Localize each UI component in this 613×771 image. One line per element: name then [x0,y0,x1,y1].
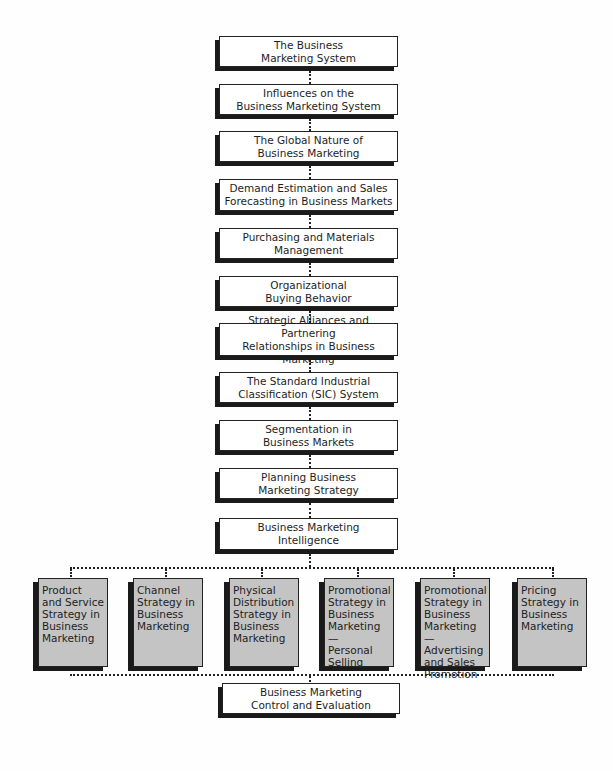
connector [357,569,359,577]
box-label: Promotional Strategy in Business Marketi… [424,584,487,680]
connector [309,676,311,682]
box-segmentation: Segmentation in Business Markets [219,420,398,451]
box-business-marketing-system: The Business Marketing System [219,36,398,67]
box-label: The Business Marketing System [261,39,356,65]
box-organizational-buying: Organizational Buying Behavior [219,276,398,307]
connector [261,569,263,577]
box-label: Purchasing and Materials Management [242,231,374,257]
connector [70,569,72,577]
box-sic-system: The Standard Industrial Classification (… [219,372,398,403]
connector [165,569,167,577]
box-influences: Influences on the Business Marketing Sys… [219,84,398,115]
connector [309,71,311,84]
connector [309,503,311,518]
connector [309,360,311,372]
box-global-nature: The Global Nature of Business Marketing [219,131,398,162]
box-label: Product and Service Strategy in Business… [42,584,104,644]
box-physical-distribution-strategy: Physical Distribution Strategy in Busine… [229,578,299,667]
connector [309,166,311,179]
box-label: Physical Distribution Strategy in Busine… [233,584,294,644]
box-pricing-strategy: Pricing Strategy in Business Marketing [517,578,587,667]
connector [309,455,311,468]
connector [309,119,311,131]
box-label: The Global Nature of Business Marketing [254,134,363,160]
box-label: Pricing Strategy in Business Marketing [521,584,579,632]
box-label: Organizational Buying Behavior [265,279,351,305]
box-channel-strategy: Channel Strategy in Business Marketing [133,578,203,667]
box-label: Demand Estimation and Sales Forecasting … [224,182,392,208]
connector [309,554,311,567]
box-promotional-personal-selling: Promotional Strategy in Business Marketi… [324,578,394,667]
box-purchasing: Purchasing and Materials Management [219,228,398,259]
box-label: Business Marketing Intelligence [258,521,360,547]
branch-line-top [70,567,554,569]
connector [552,569,554,577]
connector [309,215,311,228]
box-demand-estimation: Demand Estimation and Sales Forecasting … [219,179,398,211]
box-label: The Standard Industrial Classification (… [238,375,379,401]
box-intelligence: Business Marketing Intelligence [219,518,398,550]
box-control-evaluation: Business Marketing Control and Evaluatio… [222,683,400,714]
box-planning-strategy: Planning Business Marketing Strategy [219,468,398,499]
box-strategic-alliances: Strategic Alliances and Partnering Relat… [219,323,398,356]
connector [309,407,311,420]
box-label: Business Marketing Control and Evaluatio… [251,686,371,712]
box-label: Channel Strategy in Business Marketing [137,584,195,632]
box-label: Promotional Strategy in Business Marketi… [328,584,391,668]
box-promotional-advertising: Promotional Strategy in Business Marketi… [420,578,490,667]
box-product-service-strategy: Product and Service Strategy in Business… [38,578,108,667]
box-label: Strategic Alliances and Partnering Relat… [224,314,393,366]
branch-line-bottom [70,674,554,676]
connector [453,569,455,577]
box-label: Planning Business Marketing Strategy [258,471,359,497]
box-label: Influences on the Business Marketing Sys… [236,87,380,113]
connector [309,263,311,276]
box-label: Segmentation in Business Markets [263,423,354,449]
